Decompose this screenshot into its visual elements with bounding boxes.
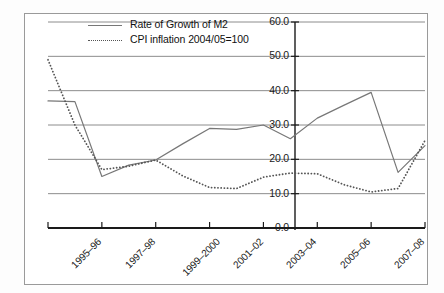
legend-label-m2: Rate of Growth of M2 bbox=[130, 18, 228, 30]
y-tick-label: 0.0 bbox=[243, 221, 289, 233]
y-tick-label: 30.0 bbox=[243, 118, 289, 130]
legend-line-solid-icon bbox=[88, 25, 122, 26]
legend-line-dotted-icon bbox=[88, 40, 122, 41]
y-tick-label: 60.0 bbox=[243, 15, 289, 27]
chart-figure: Rate of Growth of M2 CPI inflation 2004/… bbox=[0, 0, 444, 293]
legend-label-cpi: CPI inflation 2004/05=100 bbox=[130, 33, 249, 45]
legend-entry-cpi: CPI inflation 2004/05=100 bbox=[88, 33, 278, 48]
series-line-cpi bbox=[48, 60, 425, 192]
series-line-m2 bbox=[48, 92, 425, 176]
y-tick-label: 40.0 bbox=[243, 84, 289, 96]
y-tick-label: 50.0 bbox=[243, 49, 289, 61]
y-tick-label: 10.0 bbox=[243, 187, 289, 199]
y-tick-label: 20.0 bbox=[243, 152, 289, 164]
